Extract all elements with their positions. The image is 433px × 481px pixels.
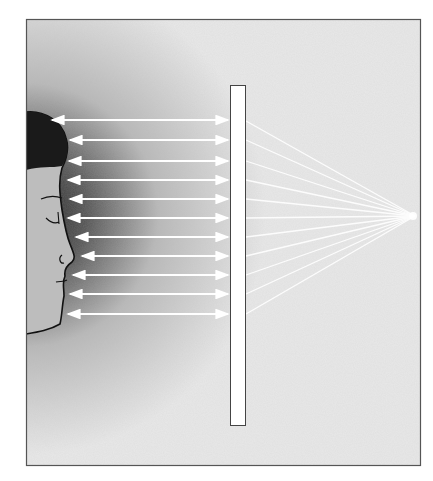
hologram-plate: [231, 86, 246, 426]
focal-point: [409, 212, 417, 220]
hologram-diagram: [0, 0, 433, 481]
